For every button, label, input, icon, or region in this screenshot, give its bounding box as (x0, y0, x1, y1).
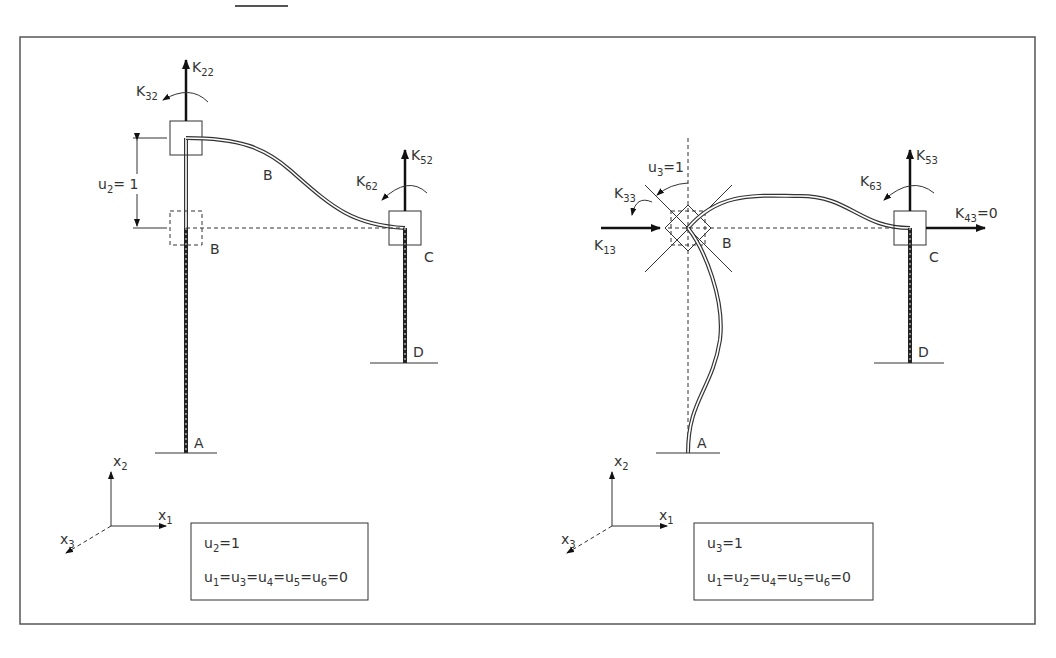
condition-line1-right: u3=1 (707, 535, 743, 554)
condition-box-right (694, 523, 873, 600)
u3-rotation-arc (657, 183, 688, 195)
node-a-label-right: A (697, 435, 707, 451)
svg-text:x1: x1 (158, 507, 173, 526)
axes-triad: x2 x1 x3 (60, 453, 173, 553)
node-b-original-label: B (210, 241, 220, 257)
axes-triad-right: x2 x1 x3 (561, 453, 674, 553)
condition-line2-left: u1=u3=u4=u5=u6=0 (204, 569, 348, 588)
svg-text:x1: x1 (659, 507, 674, 526)
deformed-beam-right (688, 196, 910, 228)
deformed-column-right (688, 228, 721, 453)
frame-stiffness-diagram: A B B D C K22 K32 K52 K62 (0, 0, 1056, 658)
k43-label: K43=0 (955, 205, 998, 224)
left-panel: A B B D C K22 K32 K52 K62 (60, 59, 438, 600)
k33-label: K33 (614, 185, 636, 204)
k52-label: K52 (411, 147, 433, 166)
svg-text:x3: x3 (60, 531, 75, 550)
node-d-label-right: D (918, 344, 929, 360)
k63-label: K63 (860, 173, 882, 192)
k13-label: K13 (594, 237, 616, 256)
node-c-label-right: C (929, 249, 939, 265)
node-c-label: C (424, 249, 434, 265)
figure-border (20, 37, 1035, 624)
condition-line2-right: u1=u2=u4=u5=u6=0 (707, 569, 851, 588)
svg-text:x3: x3 (561, 531, 576, 550)
u3-label: u3=1 (648, 159, 684, 178)
k53-label: K53 (916, 147, 938, 166)
beam-b-label: B (263, 167, 273, 183)
k62-label: K62 (356, 173, 378, 192)
node-b-label-right: B (722, 235, 732, 251)
svg-text:x2: x2 (113, 453, 128, 472)
right-panel: B A D C K53 K63 K43=0 K13 K33 u3=1 (561, 138, 998, 600)
node-a-label: A (194, 435, 204, 451)
k32-label: K32 (136, 83, 158, 102)
condition-box-left (191, 523, 368, 600)
node-d-label: D (413, 344, 424, 360)
svg-text:x2: x2 (614, 453, 629, 472)
condition-line1-left: u2=1 (204, 535, 240, 554)
k22-label: K22 (192, 59, 214, 78)
